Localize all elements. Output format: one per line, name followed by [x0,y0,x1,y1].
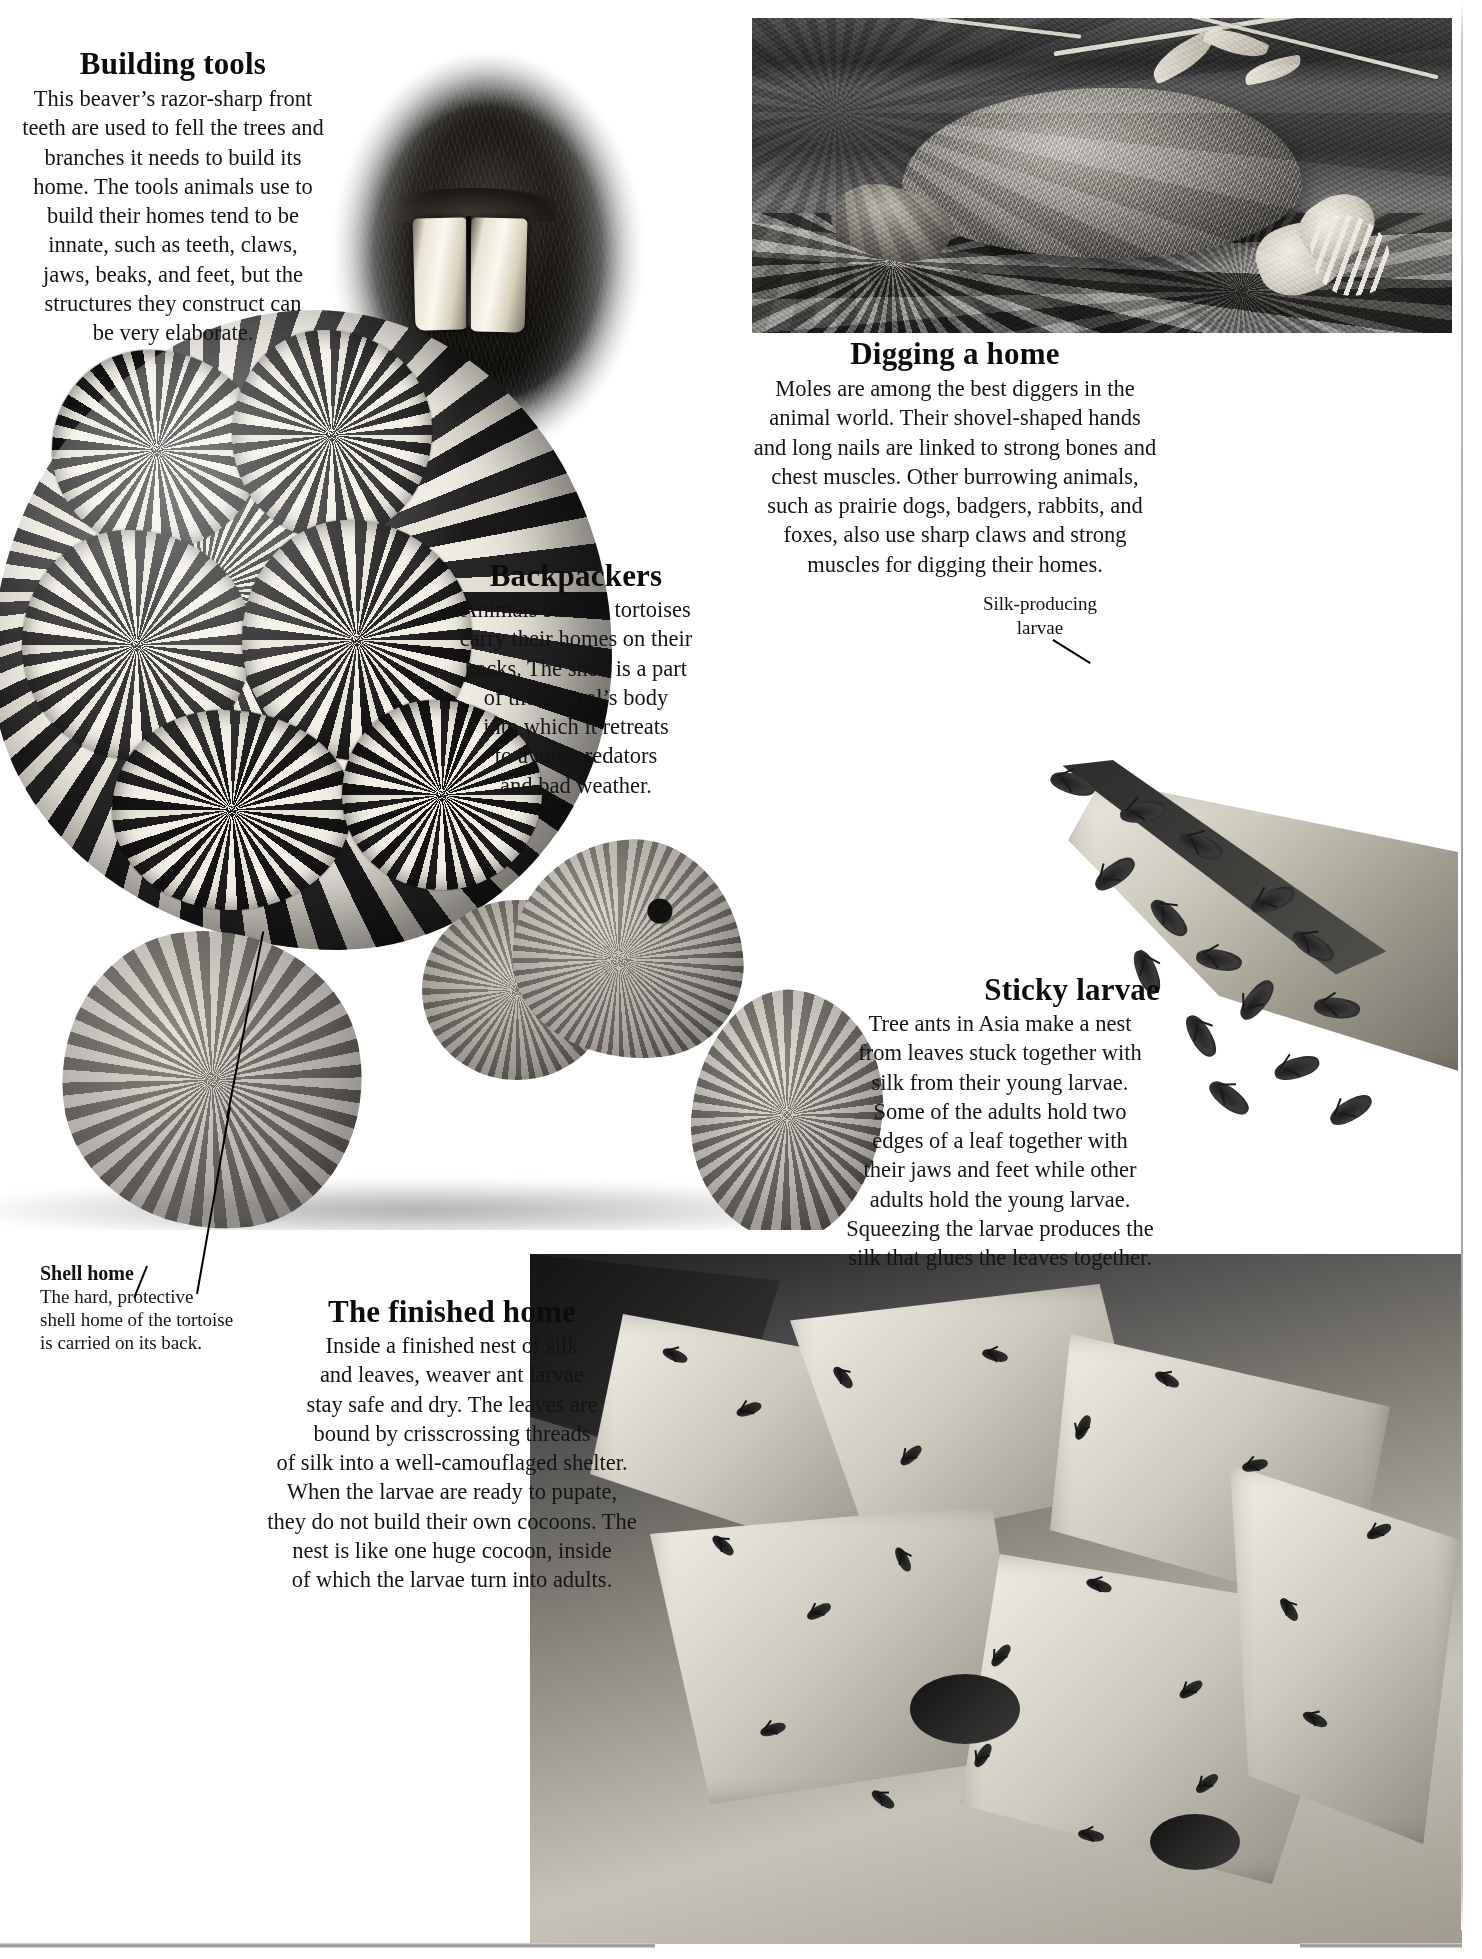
text-line: teeth are used to fell the trees and [8,113,338,142]
text-line: and leaves, weaver ant larvae [252,1360,652,1389]
nest-ant [869,1787,896,1812]
page-bottom-rule-right [1300,1943,1462,1948]
caption-line: larvae [930,616,1150,640]
caption-line: Silk-producing [930,592,1150,616]
ant [1272,1053,1321,1084]
caption-line: shell home of the tortoise [40,1308,255,1331]
mole-photo-grain [752,18,1452,333]
weaver-nest-photo [530,1254,1462,1944]
text-line: This beaver’s razor-sharp front [8,84,338,113]
text-line: such as prairie dogs, badgers, rabbits, … [745,491,1165,520]
nest-gap [1150,1814,1240,1870]
text-line: Some of the adults hold two [840,1097,1160,1126]
building-tools-heading: Building tools [8,46,338,82]
text-line: adults hold the young larvae. [840,1185,1160,1214]
text-line: from leaves stuck together with [840,1038,1160,1067]
ant [1205,1076,1253,1121]
text-line: and bad weather. [430,771,722,800]
tortoise-ground-shadow [0,1180,872,1230]
text-line: innate, such as teeth, claws, [8,230,338,259]
page-bottom-rule-left [0,1943,655,1948]
silk-larvae-leader-line [1052,639,1090,664]
caption-line: The hard, protective [40,1285,255,1308]
shell-home-caption-title: Shell home [40,1262,255,1285]
text-line: nest is like one huge cocoon, inside [252,1536,652,1565]
text-line: foxes, also use sharp claws and strong [745,520,1165,549]
backpackers-section: Backpackers Animals such as tortoises ca… [430,558,722,800]
text-line: of silk into a well-camouflaged shelter. [252,1448,652,1477]
document-page: Building tools This beaver’s razor-sharp… [0,0,1482,1959]
text-line: and long nails are linked to strong bone… [745,433,1165,462]
page-right-rule [1461,0,1463,1930]
text-line: Inside a finished nest of silk [252,1331,652,1360]
text-line: animal world. Their shovel-shaped hands [745,403,1165,432]
caption-line: is carried on its back. [40,1331,255,1354]
text-line: of the animal’s body [430,683,722,712]
sticky-larvae-section: Sticky larvae Tree ants in Asia make a n… [840,972,1160,1272]
text-line: build their homes tend to be [8,201,338,230]
the-finished-home-section: The finished home Inside a finished nest… [252,1294,652,1594]
text-line: stay safe and dry. The leaves are [252,1390,652,1419]
building-tools-body: This beaver’s razor-sharp front teeth ar… [8,84,338,347]
text-line: structures they construct can [8,289,338,318]
text-line: muscles for digging their homes. [745,550,1165,579]
sticky-larvae-body: Tree ants in Asia make a nest from leave… [840,1009,1160,1272]
text-line: into which it retreats [430,712,722,741]
building-tools-section: Building tools This beaver’s razor-sharp… [8,46,338,347]
digging-a-home-body: Moles are among the best diggers in the … [745,374,1165,579]
text-line: branches it needs to build its [8,143,338,172]
text-line: Tree ants in Asia make a nest [840,1009,1160,1038]
text-line: edges of a leaf together with [840,1126,1160,1155]
text-line: bound by crisscrossing threads [252,1419,652,1448]
text-line: When the larvae are ready to pupate, [252,1477,652,1506]
the-finished-home-body: Inside a finished nest of silk and leave… [252,1331,652,1594]
text-line: to avoid predators [430,741,722,770]
text-line: silk that glues the leaves together. [840,1243,1160,1272]
digging-a-home-heading: Digging a home [745,336,1165,372]
text-line: of which the larvae turn into adults. [252,1565,652,1594]
text-line: carry their homes on their [430,624,722,653]
text-line: silk from their young larvae. [840,1068,1160,1097]
text-line: Squeezing the larvae produces the [840,1214,1160,1243]
the-finished-home-heading: The finished home [252,1294,652,1330]
text-line: be very elaborate. [8,318,338,347]
text-line: Animals such as tortoises [430,595,722,624]
shell-home-caption: Shell home The hard, protective shell ho… [40,1262,255,1355]
text-line: chest muscles. Other burrowing animals, [745,462,1165,491]
sticky-larvae-heading: Sticky larvae [840,972,1160,1008]
text-line: their jaws and feet while other [840,1155,1160,1184]
text-line: they do not build their own cocoons. The [252,1507,652,1536]
nest-gap [910,1674,1020,1744]
text-line: Moles are among the best diggers in the [745,374,1165,403]
backpackers-heading: Backpackers [430,558,722,594]
ant [1181,1011,1220,1061]
silk-producing-larvae-caption: Silk-producing larvae [930,592,1150,640]
digging-a-home-section: Digging a home Moles are among the best … [745,336,1165,579]
mole-photo [752,18,1452,333]
shell-home-caption-body: The hard, protective shell home of the t… [40,1285,255,1355]
ant [1326,1090,1376,1129]
text-line: home. The tools animals use to [8,172,338,201]
text-line: jaws, beaks, and feet, but the [8,260,338,289]
text-line: backs. The shell is a part [430,654,722,683]
backpackers-body: Animals such as tortoises carry their ho… [430,595,722,800]
